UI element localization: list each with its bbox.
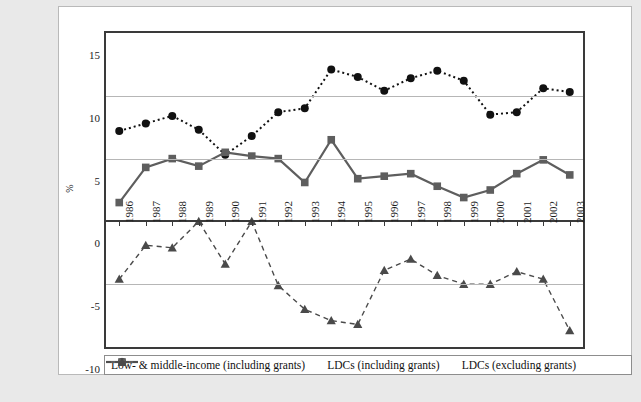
x-axis-tick (278, 221, 279, 226)
x-axis-tick (225, 221, 226, 226)
data-point-marker (142, 119, 150, 127)
zero-line (106, 220, 583, 222)
x-axis-tick (305, 221, 306, 226)
legend-label: LDCs (excluding grants) (462, 359, 576, 371)
chart-legend: Low- & middle-income (including grants)L… (104, 355, 632, 375)
data-point-marker (195, 126, 203, 134)
series-2 (115, 136, 573, 206)
series-line (119, 140, 570, 203)
data-point-marker (115, 127, 123, 135)
y-axis-tick-label: -10 (85, 363, 100, 375)
x-axis-tick (543, 221, 544, 226)
data-point-marker (248, 132, 256, 140)
y-axis-tick-label: 15 (89, 49, 100, 61)
data-point-marker (407, 74, 415, 82)
series-1 (115, 65, 574, 158)
data-point-marker (301, 104, 309, 112)
data-point-marker (195, 162, 203, 170)
y-axis-tick-label: 10 (89, 112, 100, 124)
plot-area (104, 31, 585, 349)
data-point-marker (539, 84, 547, 92)
data-point-marker (433, 271, 442, 279)
data-point-marker (539, 156, 547, 164)
x-axis-tick (252, 221, 253, 226)
screenshot-background: % 151050-5-10 19861987198819891990199119… (0, 0, 641, 402)
data-point-marker (221, 260, 230, 268)
legend-item[interactable]: Low- & middle-income (including grants) (111, 359, 305, 371)
data-point-marker (354, 175, 362, 183)
data-point-marker (141, 241, 150, 249)
x-axis-tick (331, 221, 332, 226)
data-point-marker (460, 77, 468, 85)
data-point-marker (513, 170, 521, 178)
data-point-marker (512, 267, 521, 275)
x-axis-tick (119, 221, 120, 226)
x-axis-tick (358, 221, 359, 226)
series-3 (115, 217, 575, 335)
data-point-marker (327, 136, 335, 144)
x-axis-tick (172, 221, 173, 226)
data-point-marker (380, 172, 388, 180)
data-point-marker (406, 254, 415, 262)
data-point-marker (433, 67, 441, 75)
legend-item[interactable]: LDCs (excluding grants) (462, 359, 576, 371)
y-axis-tick-label: 0 (95, 237, 101, 249)
y-axis-tick-label: 5 (95, 175, 101, 187)
x-axis-tick (411, 221, 412, 226)
data-point-marker (115, 199, 123, 207)
data-point-marker (486, 111, 494, 119)
chart-panel: % 151050-5-10 19861987198819891990199119… (58, 6, 632, 375)
series-line (119, 221, 570, 330)
legend-symbol-triangle-icon (105, 356, 139, 368)
data-point-marker (327, 316, 336, 324)
data-point-marker (221, 149, 229, 157)
data-point-marker (301, 179, 309, 187)
data-point-marker (460, 194, 468, 202)
gridline (106, 284, 583, 285)
chart-svg (106, 33, 583, 347)
x-axis-tick (490, 221, 491, 226)
data-point-marker (274, 108, 282, 116)
legend-item[interactable]: LDCs (including grants) (327, 359, 439, 371)
data-point-marker (565, 326, 574, 334)
x-axis-tick (517, 221, 518, 226)
data-point-marker (433, 182, 441, 190)
data-point-marker (354, 73, 362, 81)
legend-label: LDCs (including grants) (327, 359, 439, 371)
data-point-marker (380, 266, 389, 274)
series-line (119, 69, 570, 154)
legend-label: Low- & middle-income (including grants) (111, 359, 305, 371)
y-axis-tick-labels: 151050-5-10 (59, 31, 100, 349)
data-point-marker (168, 112, 176, 120)
data-point-marker (327, 65, 335, 73)
data-point-marker (142, 164, 150, 172)
gridline (106, 159, 583, 160)
x-axis-tick (570, 221, 571, 226)
y-axis-tick-label: -5 (91, 300, 100, 312)
x-axis-tick (199, 221, 200, 226)
gridline (106, 96, 583, 97)
data-point-marker (380, 87, 388, 95)
x-axis-tick (384, 221, 385, 226)
x-axis-tick (437, 221, 438, 226)
data-point-marker (566, 171, 574, 179)
x-axis-tick (464, 221, 465, 226)
data-point-marker (513, 108, 521, 116)
x-axis-tick (146, 221, 147, 226)
data-point-marker (407, 170, 415, 178)
data-point-marker (486, 186, 494, 194)
